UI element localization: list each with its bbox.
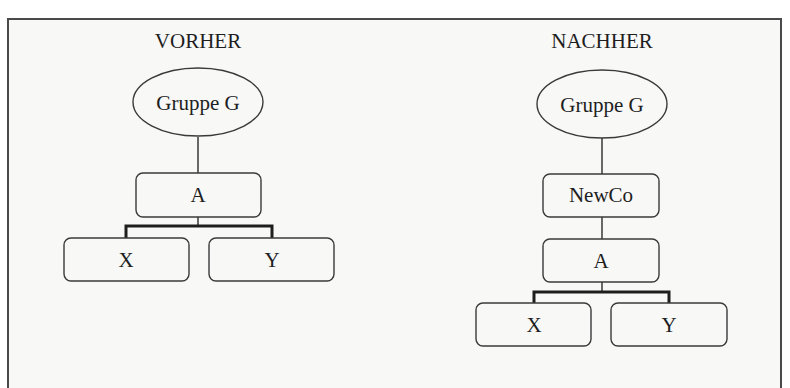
after-node-y-label: Y <box>661 313 676 337</box>
after-node-newco: NewCo <box>543 174 659 217</box>
before-node-x-label: X <box>118 248 133 272</box>
after-node-a: A <box>543 239 659 282</box>
before-panel: VORHER Gruppe G A X Y <box>64 29 334 281</box>
after-root-label: Gruppe G <box>560 93 643 117</box>
after-node-x: X <box>476 303 591 346</box>
after-root-node: Gruppe G <box>537 70 667 138</box>
connector-a-to-children <box>126 226 272 238</box>
before-node-a-label: A <box>190 183 206 207</box>
after-panel: NACHHER Gruppe G NewCo A X Y <box>476 29 727 346</box>
after-title: NACHHER <box>551 29 653 53</box>
before-node-y: Y <box>209 238 334 281</box>
before-node-y-label: Y <box>264 248 279 272</box>
after-node-x-label: X <box>526 313 541 337</box>
before-title: VORHER <box>155 29 241 53</box>
after-node-a-label: A <box>593 249 609 273</box>
connector-a-to-children <box>534 292 669 303</box>
before-root-node: Gruppe G <box>133 68 263 136</box>
after-node-y: Y <box>611 303 727 346</box>
before-root-label: Gruppe G <box>156 91 239 115</box>
before-node-x: X <box>64 238 189 281</box>
before-node-a: A <box>136 173 261 217</box>
after-node-newco-label: NewCo <box>569 183 633 207</box>
